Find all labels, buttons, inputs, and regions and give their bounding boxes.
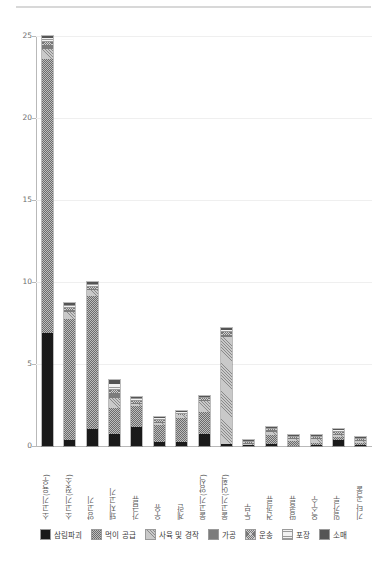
y-tick-mark: [32, 446, 36, 447]
bar-segment: [243, 445, 254, 446]
bar-segment: [199, 434, 210, 446]
bar-segment: [131, 406, 142, 427]
legend-item-retail[interactable]: 소매: [319, 529, 347, 540]
bar-0[interactable]: [42, 36, 53, 446]
legend-swatch-icon: [245, 529, 256, 540]
bar-6[interactable]: [176, 411, 187, 446]
bar-segment: [288, 441, 299, 446]
legend-label: 가공: [222, 529, 236, 540]
y-tick-label: 0: [8, 442, 32, 450]
bar-segment: [42, 49, 53, 59]
x-tick-label: 우유: [154, 450, 163, 520]
bar-segment: [109, 434, 120, 446]
bar-segment: [64, 440, 75, 446]
legend-item-feed[interactable]: 먹이 공급: [91, 529, 135, 540]
bar-7[interactable]: [199, 396, 210, 446]
bar-segment: [87, 429, 98, 446]
gridline: [36, 118, 372, 119]
x-tick-label: 물고기(어획): [221, 450, 230, 520]
bar-segment: [355, 445, 366, 446]
x-tick-label: 기타 곡물: [356, 450, 365, 520]
x-tick-label: 양고기: [87, 450, 96, 520]
legend-swatch-icon: [91, 529, 102, 540]
legend-label: 운송: [259, 529, 273, 540]
legend-swatch-icon: [208, 529, 219, 540]
legend-label: 소매: [333, 529, 347, 540]
x-tick-label: 돼지고기: [109, 450, 118, 520]
bar-segment: [266, 444, 277, 446]
x-tick-label: 땅콩류: [289, 450, 298, 520]
y-tick-mark: [32, 364, 36, 365]
bar-segment: [64, 312, 75, 319]
bar-segment: [87, 296, 98, 429]
bar-1[interactable]: [64, 303, 75, 446]
legend-swatch-icon: [282, 529, 293, 540]
y-tick-mark: [32, 36, 36, 37]
x-tick-label: 견과류: [266, 450, 275, 520]
bar-8[interactable]: [221, 328, 232, 446]
y-tick-label: 10: [8, 278, 32, 286]
bar-segment: [154, 425, 165, 442]
bar-4[interactable]: [131, 397, 142, 446]
x-tick-label: 밀가루: [333, 450, 342, 520]
bar-segment: [221, 444, 232, 446]
bar-segment: [109, 408, 120, 433]
bar-segment: [42, 59, 53, 333]
legend-item-deforest[interactable]: 삼림파괴: [40, 529, 82, 540]
x-tick-label: 소고기(젖소): [65, 450, 74, 520]
chart-legend: 삼림파괴먹이 공급사육 및 경작가공운송포장소매: [0, 529, 387, 540]
chart-plot-area: [36, 36, 372, 446]
y-tick-label: 25: [8, 32, 32, 40]
top-divider: [16, 6, 371, 8]
x-axis-labels: 소고기(육우)소고기(젖소)양고기돼지고기가금류우유계란물고기(양식)물고기(어…: [36, 450, 372, 522]
gridline: [36, 200, 372, 201]
legend-swatch-icon: [145, 529, 156, 540]
bar-14[interactable]: [355, 437, 366, 446]
legend-swatch-icon: [319, 529, 330, 540]
x-tick-label: 옥수수: [311, 450, 320, 520]
y-tick-mark: [32, 118, 36, 119]
bar-segment: [176, 442, 187, 446]
bar-segment: [333, 440, 344, 446]
legend-label: 사육 및 경작: [159, 529, 199, 540]
bar-segment: [199, 412, 210, 434]
x-tick-label: 물고기(양식): [199, 450, 208, 520]
x-axis-line: [36, 446, 372, 447]
y-tick-label: 20: [8, 114, 32, 122]
bar-segment: [109, 398, 120, 408]
legend-swatch-icon: [40, 529, 51, 540]
x-tick-label: 두부: [244, 450, 253, 520]
bar-segment: [221, 337, 232, 444]
bar-segment: [266, 435, 277, 444]
gridline: [36, 36, 372, 37]
legend-item-process[interactable]: 가공: [208, 529, 236, 540]
bar-segment: [131, 427, 142, 446]
bar-11[interactable]: [288, 435, 299, 446]
bar-segment: [154, 442, 165, 446]
legend-item-transport[interactable]: 운송: [245, 529, 273, 540]
y-tick-mark: [32, 200, 36, 201]
y-tick-mark: [32, 282, 36, 283]
legend-label: 먹이 공급: [105, 529, 135, 540]
bar-segment: [176, 418, 187, 442]
bar-5[interactable]: [154, 417, 165, 446]
bar-segment: [64, 319, 75, 440]
y-tick-label: 15: [8, 196, 32, 204]
legend-label: 포장: [296, 529, 310, 540]
legend-label: 삼림파괴: [54, 529, 82, 540]
legend-item-package[interactable]: 포장: [282, 529, 310, 540]
bar-10[interactable]: [266, 427, 277, 446]
y-tick-label: 5: [8, 360, 32, 368]
bar-2[interactable]: [87, 282, 98, 446]
bar-segment: [311, 445, 322, 446]
bar-9[interactable]: [243, 440, 254, 446]
bar-segment: [199, 401, 210, 412]
x-tick-label: 소고기(육우): [42, 450, 51, 520]
legend-item-farm[interactable]: 사육 및 경작: [145, 529, 199, 540]
bar-3[interactable]: [109, 380, 120, 446]
bar-13[interactable]: [333, 429, 344, 446]
bar-segment: [42, 333, 53, 446]
x-tick-label: 계란: [177, 450, 186, 520]
x-tick-label: 가금류: [132, 450, 141, 520]
bar-12[interactable]: [311, 435, 322, 446]
